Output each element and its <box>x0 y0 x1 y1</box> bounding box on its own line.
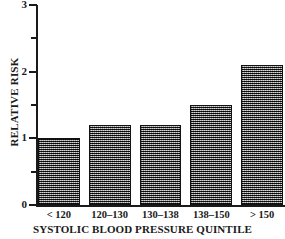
x-axis-tick-label: 138–150 <box>184 209 238 221</box>
bar <box>190 105 232 205</box>
y-axis-minor-tick <box>31 37 37 39</box>
x-axis-tick-label: 130–138 <box>134 209 188 221</box>
y-axis-major-tick <box>29 204 37 206</box>
y-axis-major-tick <box>29 4 37 6</box>
y-axis-tick-label: 0 <box>3 199 27 210</box>
plot-area <box>36 0 285 207</box>
x-axis-tick-label: < 120 <box>32 209 86 221</box>
bar <box>241 65 283 205</box>
bar <box>140 125 182 205</box>
y-axis-tick-label: 1 <box>3 132 27 143</box>
x-axis-tick-label: > 150 <box>235 209 285 221</box>
y-axis-tick-label: 2 <box>3 66 27 77</box>
bar-chart: RELATIVE RISK 3210 SYSTOLIC BLOOD PRESSU… <box>0 0 285 239</box>
bar <box>89 125 131 205</box>
y-axis-tick-labels: 3210 <box>0 0 27 239</box>
y-axis-major-tick <box>29 71 37 73</box>
y-axis-major-tick <box>29 137 37 139</box>
bar <box>38 138 80 205</box>
x-axis-title: SYSTOLIC BLOOD PRESSURE QUINTILE <box>0 223 285 235</box>
x-axis-tick-label: 120–130 <box>83 209 137 221</box>
y-axis-minor-tick <box>31 104 37 106</box>
y-axis-tick-label: 3 <box>3 0 27 10</box>
y-axis-minor-tick <box>31 171 37 173</box>
